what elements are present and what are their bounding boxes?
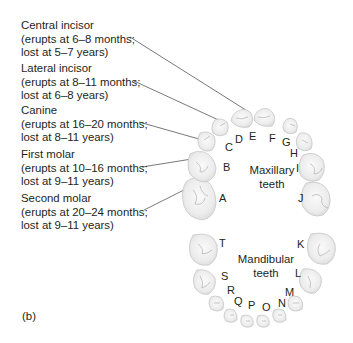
callout-erupts: (erupts at 6–8 months;	[21, 33, 135, 47]
tooth-label-O: O	[262, 302, 271, 313]
tooth-D	[212, 119, 228, 136]
panel-label: (b)	[22, 310, 36, 322]
tooth-R	[209, 296, 224, 311]
leader-line-central-incisor	[130, 37, 249, 112]
tooth-G	[283, 118, 297, 134]
tooth-label-M: M	[285, 287, 294, 298]
callout-erupts: (erupts at 20–24 months;	[21, 206, 148, 220]
callout-second-molar: Second molar (erupts at 20–24 months; lo…	[21, 192, 148, 233]
callout-lateral-incisor: Lateral incisor (erupts at 8–11 months; …	[21, 62, 140, 103]
tooth-H	[296, 133, 312, 151]
callout-lost: lost at 6–8 years)	[21, 89, 140, 103]
callout-title: Lateral incisor	[21, 62, 140, 76]
tooth-label-J: J	[298, 193, 304, 204]
callout-first-molar: First molar (erupts at 10–16 months; los…	[21, 148, 148, 189]
tooth-C	[198, 132, 215, 151]
callout-erupts: (erupts at 16–20 months;	[21, 118, 148, 132]
tooth-A	[182, 177, 216, 220]
tooth-M	[288, 296, 303, 311]
maxillary-teeth-title: Maxillary teeth	[232, 164, 312, 191]
tooth-label-N: N	[278, 298, 286, 309]
callout-erupts: (erupts at 8–11 months;	[21, 76, 140, 90]
tooth-K	[307, 233, 335, 264]
mandibular-teeth-title: Mandibular teeth	[226, 253, 306, 280]
leader-line-lateral-incisor	[134, 81, 225, 123]
tooth-B	[188, 151, 216, 182]
callout-title: Second molar	[21, 192, 148, 206]
callout-lost: lost at 8–11 years)	[21, 131, 148, 145]
tooth-S	[193, 270, 215, 295]
tooth-label-F: F	[269, 133, 276, 144]
tooth-label-D: D	[235, 134, 243, 145]
tooth-label-T: T	[219, 238, 226, 249]
tooth-label-E: E	[249, 131, 256, 142]
callout-canine: Canine (erupts at 16–20 months; lost at …	[21, 104, 148, 145]
deciduous-teeth-diagram: Central incisor (erupts at 6–8 months; l…	[0, 0, 353, 343]
tooth-Q	[224, 309, 237, 322]
leader-line-canine	[139, 122, 206, 141]
callout-title: Central incisor	[21, 19, 135, 33]
tooth-N	[273, 309, 286, 322]
mandibular-title-line2: teeth	[226, 267, 306, 281]
tooth-label-B: B	[223, 162, 230, 173]
callout-lost: lost at 9–11 years)	[21, 175, 148, 189]
callout-lost: lost at 9–11 years)	[21, 219, 148, 233]
tooth-T	[189, 234, 217, 265]
callout-central-incisor: Central incisor (erupts at 6–8 months; l…	[21, 19, 135, 60]
callout-title: Canine	[21, 104, 148, 118]
mandibular-arch	[189, 233, 335, 327]
tooth-label-A: A	[219, 193, 226, 204]
mandibular-title-line1: Mandibular	[226, 253, 306, 267]
callout-erupts: (erupts at 10–16 months;	[21, 162, 148, 176]
maxillary-title-line1: Maxillary	[232, 164, 312, 178]
callout-title: First molar	[21, 148, 148, 162]
maxillary-title-line2: teeth	[232, 178, 312, 192]
tooth-label-K: K	[297, 239, 304, 250]
tooth-label-P: P	[248, 300, 255, 311]
callout-lost: lost at 5–7 years)	[21, 46, 135, 60]
tooth-label-H: H	[290, 148, 298, 159]
tooth-label-C: C	[225, 142, 233, 153]
tooth-label-Q: Q	[234, 296, 243, 307]
tooth-label-R: R	[227, 285, 235, 296]
